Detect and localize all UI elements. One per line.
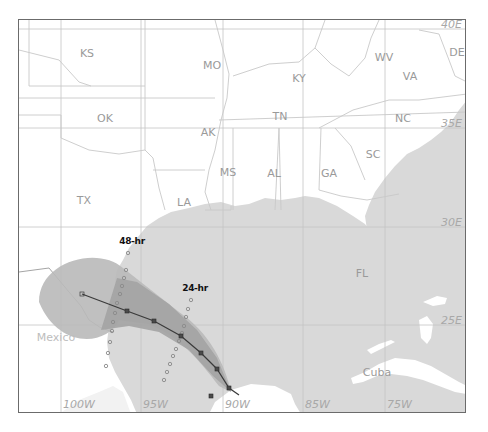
map-frame[interactable]: KS MO KY WV VA OK AK TN NC MS AL GA SC D… xyxy=(18,19,466,413)
country-label-cuba: Cuba xyxy=(363,366,391,379)
state-label-tn: TN xyxy=(273,110,288,123)
country-label-mexico: Mexico xyxy=(37,331,75,344)
latitude-label-30e: 30E xyxy=(441,216,462,229)
state-label-mo: MO xyxy=(203,59,221,72)
longitude-label-85w: 85W xyxy=(305,398,330,411)
latitude-label-25e: 25E xyxy=(441,314,462,327)
longitude-label-90w: 90W xyxy=(225,398,250,411)
latitude-label-40e: 40E xyxy=(441,19,462,31)
state-label-ak: AK xyxy=(201,126,216,139)
state-label-nc: NC xyxy=(395,112,411,125)
longitude-label-75w: 75W xyxy=(387,398,412,411)
longitude-label-95w: 95W xyxy=(143,398,168,411)
longitude-label-100w: 100W xyxy=(63,398,95,411)
state-label-fl: FL xyxy=(356,267,368,280)
state-label-ok: OK xyxy=(97,112,113,125)
state-label-wv: WV xyxy=(375,51,393,64)
map-canvas xyxy=(19,20,466,413)
state-label-ms: MS xyxy=(220,166,236,179)
state-label-ky: KY xyxy=(292,72,306,85)
state-label-tx: TX xyxy=(77,194,91,207)
state-label-al: AL xyxy=(267,167,281,180)
latitude-label-35e: 35E xyxy=(441,117,462,130)
state-label-de: DE xyxy=(449,46,464,59)
state-label-la: LA xyxy=(177,196,191,209)
forecast-label-24hr: 24-hr xyxy=(182,283,208,293)
state-label-va: VA xyxy=(403,70,417,83)
state-label-ks: KS xyxy=(80,47,94,60)
state-label-ga: GA xyxy=(321,167,337,180)
forecast-label-48hr: 48-hr xyxy=(119,236,145,246)
state-label-sc: SC xyxy=(366,148,381,161)
